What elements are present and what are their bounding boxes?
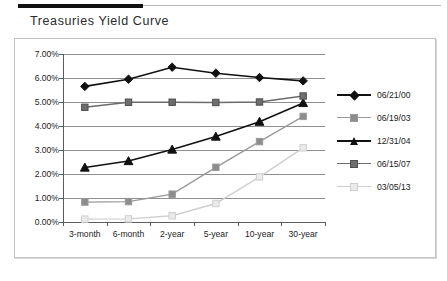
- data-point: [213, 164, 219, 170]
- data-point: [169, 99, 175, 105]
- legend-item-06/15/07[interactable]: 06/15/07: [337, 152, 433, 175]
- series-06/21/00: [81, 63, 308, 91]
- data-point: [125, 216, 131, 222]
- data-point: [256, 174, 262, 180]
- series-line: [85, 116, 303, 202]
- data-point: [125, 99, 131, 105]
- legend-label: 06/19/03: [371, 113, 410, 123]
- data-point: [82, 216, 88, 222]
- data-point: [300, 93, 306, 99]
- data-point: [82, 104, 88, 110]
- data-point: [213, 200, 219, 206]
- legend-marker-icon: [337, 111, 371, 125]
- data-point: [256, 99, 262, 105]
- legend-marker-icon: [337, 157, 371, 171]
- data-point: [300, 145, 306, 151]
- legend-label: 12/31/04: [371, 136, 410, 146]
- series-line: [85, 148, 303, 219]
- legend-item-06/21/00[interactable]: 06/21/00: [337, 83, 433, 106]
- series-line: [85, 96, 303, 107]
- legend-label: 06/15/07: [371, 159, 410, 169]
- legend-marker-icon: [337, 180, 371, 194]
- header-rule-black: [18, 4, 143, 8]
- data-point: [168, 63, 176, 71]
- data-point: [169, 213, 175, 219]
- legend-item-06/19/03[interactable]: 06/19/03: [337, 106, 433, 129]
- legend-item-03/05/13[interactable]: 03/05/13: [337, 175, 433, 198]
- data-point: [299, 77, 307, 85]
- data-point: [169, 191, 175, 197]
- data-point: [124, 75, 132, 83]
- chart-container: 0.00%1.00%2.00%3.00%4.00%5.00%6.00%7.00%…: [14, 38, 436, 258]
- page-title: Treasuries Yield Curve: [30, 14, 169, 28]
- series-12/31/04: [80, 99, 307, 172]
- legend-marker-icon: [337, 134, 371, 148]
- data-point: [82, 199, 88, 205]
- data-point: [255, 73, 263, 81]
- data-point: [256, 138, 262, 144]
- series-line: [85, 67, 303, 86]
- series-03/05/13: [82, 145, 307, 223]
- legend-label: 06/21/00: [371, 90, 410, 100]
- data-point: [212, 69, 220, 77]
- header-rule: [0, 4, 447, 8]
- data-point: [299, 99, 308, 107]
- header-rule-thin: [143, 5, 441, 6]
- data-point: [81, 82, 89, 90]
- legend-label: 03/05/13: [371, 182, 410, 192]
- data-point: [255, 117, 264, 125]
- data-point: [300, 113, 306, 119]
- series-06/19/03: [82, 113, 307, 205]
- series-06/15/07: [82, 93, 307, 111]
- data-point: [213, 99, 219, 105]
- chart-legend: 06/21/0006/19/0312/31/0406/15/0703/05/13: [337, 83, 433, 198]
- legend-marker-icon: [337, 88, 371, 102]
- data-point: [125, 198, 131, 204]
- legend-item-12/31/04[interactable]: 12/31/04: [337, 129, 433, 152]
